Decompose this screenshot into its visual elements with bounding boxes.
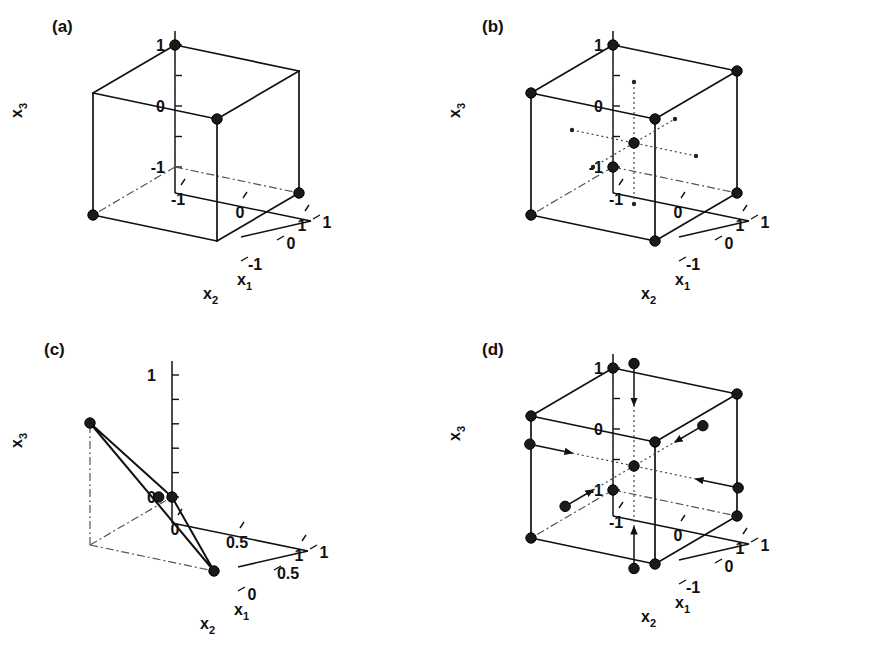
x2-tick-label: 1 (320, 544, 329, 561)
x2-tick-label: 1 (761, 537, 770, 554)
cube-edge (531, 538, 655, 564)
data-point-star (629, 358, 639, 368)
axis-label-base: x (8, 439, 25, 448)
cube-edge (175, 45, 299, 71)
x1-tick-label: 0.5 (226, 534, 248, 551)
data-point-corner (732, 66, 742, 76)
x2-tick (751, 215, 758, 219)
axis-label-subscript: 1 (684, 603, 690, 615)
cube-edge (93, 45, 175, 93)
x1-tick-label: -1 (609, 514, 623, 531)
cube-hidden-edge (613, 490, 737, 516)
data-point-corner (650, 236, 660, 246)
cube-edge (531, 416, 655, 442)
data-point-corner (650, 114, 660, 124)
x1-tick-label: 0 (674, 527, 683, 544)
axis-label-subscript: 2 (209, 624, 215, 636)
data-point-star (629, 563, 639, 573)
x3-axis-label: x3 (8, 103, 29, 118)
centre-axis-tip (673, 117, 677, 121)
x1-tick-label: -1 (609, 191, 623, 208)
data-point-corner (732, 389, 742, 399)
data-point-corner (526, 411, 536, 421)
x2-tick (313, 215, 320, 219)
x2-axis-label: x2 (641, 285, 656, 306)
data-point-vertex (167, 492, 177, 502)
simplex-guide (90, 497, 172, 545)
x3-tick-label: -1 (151, 159, 165, 176)
data-point-corner (526, 88, 536, 98)
axis-label-subscript: 3 (17, 103, 29, 109)
plot-a: (a)10-1-10110-1x1x2x3 (0, 0, 437, 322)
panel-tag-c: (c) (44, 340, 65, 359)
x2-tick-label: -1 (686, 256, 700, 273)
x1-axis-label: x1 (237, 271, 252, 292)
cube-hidden-edge (613, 167, 737, 193)
centre-axis-tip (632, 80, 636, 84)
panel-c: (c)0100.5110.50x1x2x3 (0, 323, 437, 645)
x3-axis-label: x3 (446, 103, 467, 118)
cube-edge (613, 45, 737, 71)
x1-tick (619, 179, 623, 185)
axis-label-base: x (203, 285, 212, 302)
data-point-vertex (85, 418, 95, 428)
star-point-stem (530, 444, 572, 453)
axis-label-base: x (234, 601, 243, 618)
axis-label-subscript: 3 (455, 103, 467, 109)
data-point-vertex (209, 566, 219, 576)
x1-tick-label: 0 (236, 204, 245, 221)
x1-tick-label: -1 (171, 191, 185, 208)
x1-tick-label: 1 (295, 547, 304, 564)
x1-tick (619, 502, 623, 508)
data-point-corner (732, 188, 742, 198)
cube-edge (655, 71, 737, 119)
x1-tick (302, 535, 306, 541)
x1-tick (743, 528, 747, 534)
x1-tick-label: 1 (298, 217, 307, 234)
data-point-corner (650, 437, 660, 447)
centre-axis-tip (632, 202, 636, 206)
x2-tick (715, 236, 722, 240)
x2-tick (310, 545, 317, 549)
axis-label-subscript: 1 (246, 280, 252, 292)
panel-b: (b)10-1-10110-1x1x2x3 (438, 0, 875, 322)
data-point-centre (629, 138, 639, 148)
axis-label-subscript: 1 (684, 280, 690, 292)
centre-axis-tip (694, 154, 698, 158)
data-point-corner (88, 210, 98, 220)
data-point-centre (629, 461, 639, 471)
x1-axis-label: x1 (675, 271, 690, 292)
data-point-star (698, 420, 708, 430)
x1-tick (181, 179, 185, 185)
axis-label-subscript: 3 (455, 426, 467, 432)
x1-tick (743, 205, 747, 211)
axis-label-subscript: 3 (17, 433, 29, 439)
x2-tick-label: -1 (686, 579, 700, 596)
x2-axis-label: x2 (200, 615, 215, 636)
data-point-corner (526, 533, 536, 543)
data-point-corner (608, 363, 618, 373)
data-point-corner (608, 40, 618, 50)
axis-label-base: x (8, 109, 25, 118)
axis-label-base: x (675, 594, 684, 611)
x1-tick-label: 1 (736, 217, 745, 234)
axis-label-subscript: 2 (650, 294, 656, 306)
x1-tick-label: 0 (674, 204, 683, 221)
x2-tick (238, 587, 245, 591)
x1-tick (243, 192, 247, 198)
axis-label-base: x (641, 608, 650, 625)
axis-label-base: x (446, 109, 463, 118)
plot-d: (d)10-1-10110-1x1x2x3 (438, 323, 875, 645)
cube-edge (217, 71, 299, 119)
axis-label-subscript: 2 (212, 294, 218, 306)
cube-edge (93, 93, 217, 119)
plot-b: (b)10-1-10110-1x1x2x3 (438, 0, 875, 322)
x1-tick-label: 1 (736, 540, 745, 557)
cube-edge (613, 368, 737, 394)
panel-tag-b: (b) (482, 17, 504, 36)
cube-edge (531, 215, 655, 241)
panel-tag-d: (d) (482, 340, 504, 359)
x2-tick-label: 0 (725, 235, 734, 252)
x2-tick-label: 0 (287, 235, 296, 252)
x2-tick-label: -1 (248, 256, 262, 273)
